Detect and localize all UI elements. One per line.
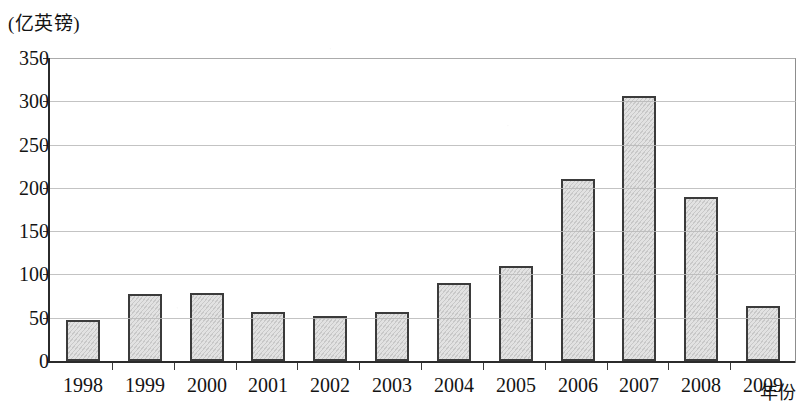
x-tick-label: 2003 xyxy=(364,375,420,395)
y-tick-label: 250 xyxy=(19,135,49,155)
gridline xyxy=(50,58,796,59)
y-tick-label: 0 xyxy=(39,351,49,371)
y-tick-label: 50 xyxy=(29,308,49,328)
x-tick-label: 2004 xyxy=(426,375,482,395)
y-axis-unit-caption: (亿英镑) xyxy=(8,8,80,35)
gridline xyxy=(50,318,796,319)
x-tick-mark xyxy=(730,363,731,370)
gridline xyxy=(50,188,796,189)
gridline xyxy=(50,101,796,102)
bars-layer xyxy=(50,58,796,361)
bar xyxy=(499,266,533,361)
x-tick-mark xyxy=(297,363,298,370)
x-tick-mark xyxy=(359,363,360,370)
y-tick-label: 100 xyxy=(19,264,49,284)
x-axis-line xyxy=(48,361,796,363)
x-tick-mark xyxy=(545,363,546,370)
x-tick-label: 2001 xyxy=(240,375,296,395)
bar xyxy=(746,306,780,361)
x-tick-label: 1999 xyxy=(117,375,173,395)
x-tick-label: 2005 xyxy=(488,375,544,395)
bar xyxy=(251,312,285,361)
x-tick-label: 2007 xyxy=(611,375,667,395)
y-tick-label: 300 xyxy=(19,91,49,111)
x-tick-mark xyxy=(174,363,175,370)
x-tick-mark xyxy=(112,363,113,370)
x-tick-label: 2006 xyxy=(550,375,606,395)
x-tick-label: 2008 xyxy=(673,375,729,395)
bar xyxy=(190,293,224,361)
y-tick-label: 200 xyxy=(19,178,49,198)
x-tick-label: 2000 xyxy=(179,375,235,395)
x-tick-label: 1998 xyxy=(55,375,111,395)
gridline xyxy=(50,145,796,146)
bar xyxy=(437,283,471,361)
bar xyxy=(622,96,656,361)
x-tick-mark xyxy=(236,363,237,370)
bar xyxy=(66,320,100,361)
y-tick-label: 350 xyxy=(19,48,49,68)
bar xyxy=(313,316,347,361)
x-tick-mark xyxy=(607,363,608,370)
bar xyxy=(128,294,162,361)
gridline xyxy=(50,231,796,232)
x-tick-mark xyxy=(483,363,484,370)
x-axis-title: 年份 xyxy=(760,378,796,404)
bar xyxy=(684,197,718,361)
y-tick-label: 150 xyxy=(19,221,49,241)
x-tick-mark xyxy=(421,363,422,370)
bar xyxy=(375,312,409,361)
bar xyxy=(561,179,595,361)
x-tick-label: 2002 xyxy=(302,375,358,395)
gridline xyxy=(50,274,796,275)
x-tick-mark xyxy=(668,363,669,370)
bar-chart-figure: (亿英镑) 050100150200250300350 199819992000… xyxy=(0,0,806,405)
